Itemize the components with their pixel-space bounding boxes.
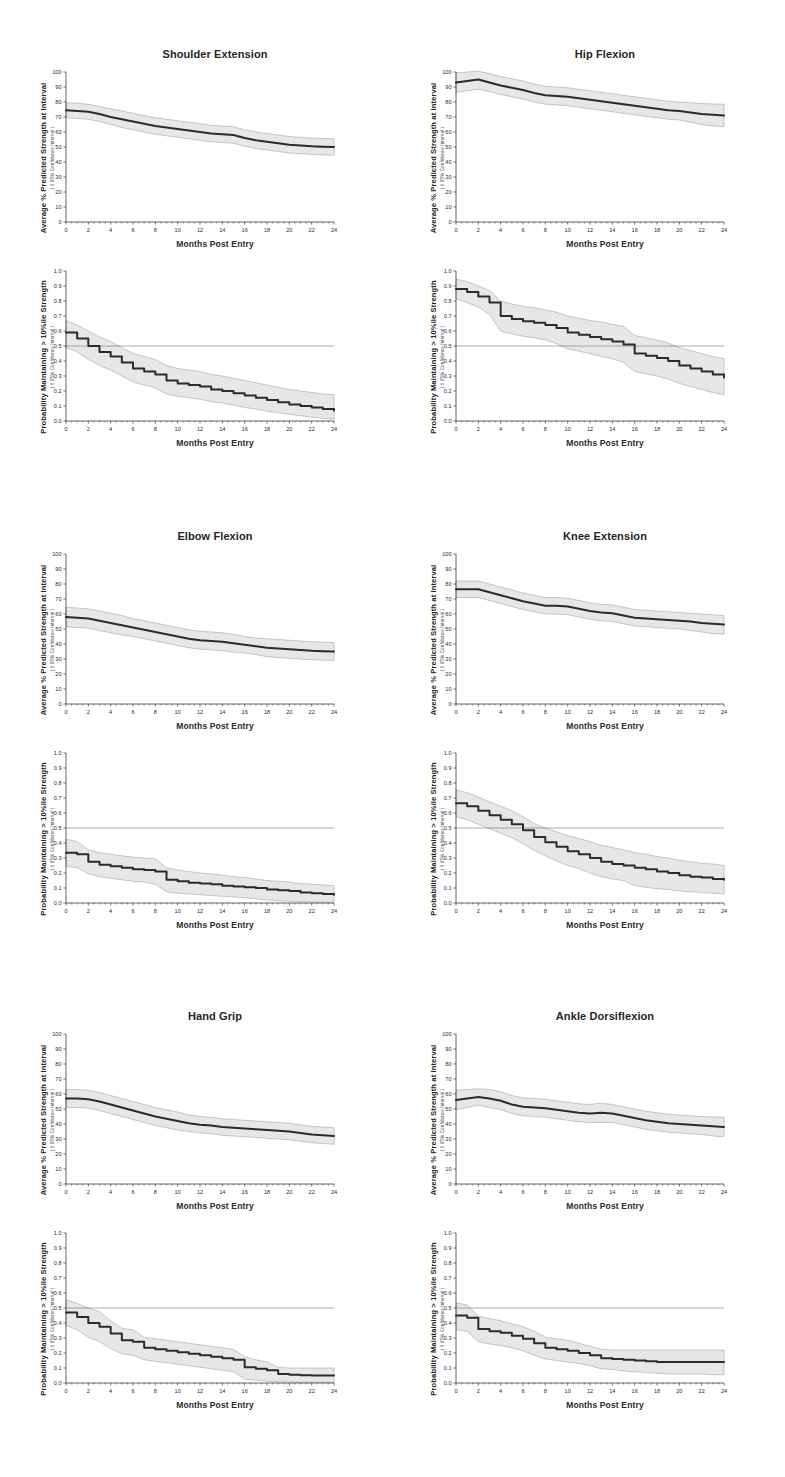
x-tick-label: 12 — [587, 426, 593, 432]
x-tick-label: 24 — [721, 227, 727, 233]
y-axis-label-host: Average % Predicted Strength at Interval… — [420, 66, 454, 249]
x-tick-label: 22 — [699, 1189, 705, 1195]
x-tick-label: 10 — [175, 426, 181, 432]
y-axis-sublabel: ( ± 95% Confidence Interval ) — [49, 608, 54, 670]
strength-panel: Average % Predicted Strength at Interval… — [420, 1028, 785, 1211]
x-tick-label: 22 — [309, 1189, 315, 1195]
y-axis-label: Average % Predicted Strength at Interval — [430, 564, 439, 715]
x-tick-label: 0 — [454, 426, 457, 432]
x-tick-label: 0 — [64, 908, 67, 914]
y-axis-label: Probability Maintaining > 10%ile Strengt… — [430, 762, 439, 915]
x-tick-label: 0 — [64, 709, 67, 715]
survival-plot-area: 0.00.10.20.30.40.50.60.70.80.91.00246810… — [420, 265, 738, 437]
y-axis-sublabel: ( ± 95% Confidence Interval ) — [49, 807, 54, 869]
confidence-interval-band — [66, 839, 334, 902]
y-axis-label: Average % Predicted Strength at Interval — [40, 564, 49, 715]
survival-panel: Probability Maintaining > 10%ile Strengt… — [420, 265, 785, 448]
x-tick-label: 18 — [264, 709, 270, 715]
y-axis-sublabel: ( ± 95% Confidence Interval ) — [49, 1287, 54, 1349]
x-tick-label: 12 — [587, 908, 593, 914]
strength-plot-area: 0102030405060708090100024681012141618202… — [420, 1028, 738, 1200]
x-tick-label: 6 — [131, 426, 134, 432]
x-tick-label: 20 — [676, 1388, 682, 1394]
x-tick-label: 22 — [699, 426, 705, 432]
confidence-interval-band — [456, 581, 724, 634]
x-tick-label: 6 — [131, 908, 134, 914]
x-tick-label: 14 — [219, 709, 225, 715]
x-tick-label: 22 — [309, 426, 315, 432]
muscle-group-block: Elbow FlexionAverage % Predicted Strengt… — [30, 530, 400, 930]
x-tick-label: 16 — [632, 227, 638, 233]
survival-plot-area: 0.00.10.20.30.40.50.60.70.80.91.00246810… — [30, 265, 348, 437]
x-tick-label: 4 — [499, 908, 502, 914]
y-axis-label-host: Average % Predicted Strength at Interval… — [30, 548, 64, 731]
x-axis-label: Months Post Entry — [30, 721, 400, 731]
x-tick-label: 0 — [454, 227, 457, 233]
x-tick-label: 2 — [477, 1388, 480, 1394]
survival-panel: Probability Maintaining > 10%ile Strengt… — [30, 1227, 400, 1410]
x-tick-label: 20 — [676, 426, 682, 432]
x-axis-label: Months Post Entry — [420, 920, 785, 930]
y-axis-label-host: Probability Maintaining > 10%ile Strengt… — [30, 1227, 64, 1410]
x-tick-label: 24 — [331, 227, 337, 233]
x-tick-label: 20 — [286, 709, 292, 715]
x-tick-label: 4 — [499, 426, 502, 432]
x-tick-label: 4 — [109, 1189, 112, 1195]
x-tick-label: 18 — [654, 709, 660, 715]
x-tick-label: 4 — [499, 709, 502, 715]
x-tick-label: 10 — [175, 908, 181, 914]
x-tick-label: 10 — [565, 908, 571, 914]
strength-decline-figure: Shoulder ExtensionAverage % Predicted St… — [0, 0, 785, 1477]
x-tick-label: 24 — [721, 1388, 727, 1394]
x-tick-label: 8 — [544, 227, 547, 233]
x-tick-label: 18 — [654, 1189, 660, 1195]
x-tick-label: 16 — [242, 227, 248, 233]
x-tick-label: 24 — [331, 709, 337, 715]
x-tick-label: 10 — [175, 1388, 181, 1394]
x-tick-label: 8 — [154, 709, 157, 715]
x-tick-label: 4 — [109, 426, 112, 432]
x-tick-label: 18 — [264, 908, 270, 914]
x-tick-label: 2 — [87, 908, 90, 914]
x-tick-label: 14 — [219, 1388, 225, 1394]
x-axis-label: Months Post Entry — [420, 239, 785, 249]
x-tick-label: 16 — [632, 1189, 638, 1195]
x-tick-label: 12 — [197, 1189, 203, 1195]
x-tick-label: 20 — [286, 1388, 292, 1394]
x-tick-label: 12 — [197, 426, 203, 432]
x-tick-label: 14 — [219, 908, 225, 914]
x-tick-label: 14 — [609, 426, 615, 432]
survival-panel: Probability Maintaining > 10%ile Strengt… — [420, 747, 785, 930]
x-tick-label: 16 — [632, 426, 638, 432]
x-tick-label: 16 — [632, 1388, 638, 1394]
strength-panel: Average % Predicted Strength at Interval… — [420, 66, 785, 249]
x-tick-label: 4 — [109, 227, 112, 233]
strength-plot-area: 0102030405060708090100024681012141618202… — [420, 548, 738, 720]
x-tick-label: 16 — [242, 1189, 248, 1195]
x-tick-label: 12 — [587, 1189, 593, 1195]
x-tick-label: 8 — [154, 227, 157, 233]
confidence-interval-band — [66, 607, 334, 660]
x-axis-label: Months Post Entry — [30, 1400, 400, 1410]
y-axis-label-host: Average % Predicted Strength at Interval… — [30, 1028, 64, 1211]
x-tick-label: 0 — [64, 426, 67, 432]
survival-panel: Probability Maintaining > 10%ile Strengt… — [420, 1227, 785, 1410]
x-tick-label: 10 — [565, 227, 571, 233]
x-tick-label: 12 — [197, 1388, 203, 1394]
y-axis-label: Average % Predicted Strength at Interval — [430, 1044, 439, 1195]
x-tick-label: 10 — [175, 227, 181, 233]
x-tick-label: 2 — [87, 1189, 90, 1195]
x-tick-label: 2 — [87, 426, 90, 432]
y-axis-sublabel: ( ± 95% Confidence Interval ) — [439, 608, 444, 670]
x-tick-label: 10 — [565, 426, 571, 432]
x-tick-label: 0 — [454, 908, 457, 914]
confidence-interval-band — [66, 1300, 334, 1383]
x-tick-label: 0 — [454, 1388, 457, 1394]
x-tick-label: 14 — [219, 1189, 225, 1195]
x-tick-label: 14 — [609, 908, 615, 914]
strength-plot-area: 0102030405060708090100024681012141618202… — [420, 66, 738, 238]
panel-title: Ankle Dorsiflexion — [420, 1010, 785, 1022]
muscle-group-block: Hand GripAverage % Predicted Strength at… — [30, 1010, 400, 1410]
x-tick-label: 8 — [544, 1189, 547, 1195]
y-axis-label-host: Probability Maintaining > 10%ile Strengt… — [30, 747, 64, 930]
